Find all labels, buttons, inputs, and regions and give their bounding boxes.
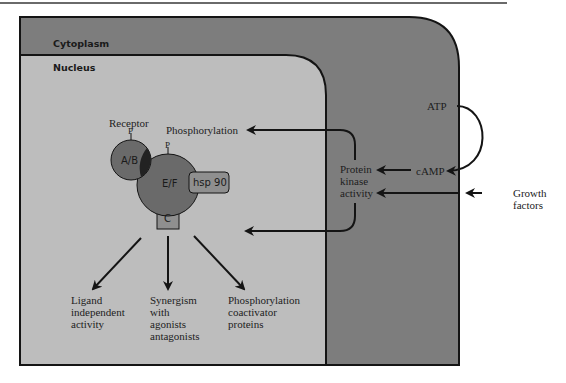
nucleus-label: Nucleus [53, 62, 95, 74]
phosphorylation-label: Phosphorylation [166, 124, 238, 136]
camp-label: cAMP [416, 165, 445, 177]
hsp90-label: hsp 90 [193, 177, 227, 189]
phospho-site-ab: P [128, 125, 133, 137]
domain-c-label: C [164, 213, 171, 225]
domain-ef-label: E/F [162, 178, 177, 190]
growth-factors-label: Growth factors [513, 187, 547, 211]
protein-kinase-label: Protein kinase activity [340, 163, 373, 199]
domain-ab-label: A/B [121, 155, 138, 167]
cytoplasm-label: Cytoplasm [53, 38, 109, 50]
phospho-site-ef: P [165, 139, 170, 151]
outcome-ligand-independent: Ligand independent activity [71, 294, 125, 330]
outcome-phosphorylation-coactivator: Phosphorylation coactivator proteins [228, 294, 300, 330]
atp-label: ATP [427, 100, 447, 112]
outcome-synergism: Synergism with agonists antagonists [150, 294, 200, 342]
